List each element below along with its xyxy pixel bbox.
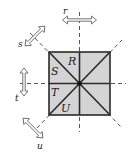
double-arrow-t-icon <box>20 68 28 96</box>
axis-label-s: s <box>18 39 23 49</box>
double-arrow-s-icon <box>22 23 47 48</box>
diagram-canvas: R S T U r s t u <box>0 0 134 157</box>
axis-label-u: u <box>37 141 43 151</box>
region-label-U: U <box>61 102 71 115</box>
axis-label-r: r <box>63 6 68 16</box>
axis-label-t: t <box>15 93 19 103</box>
region-label-R: R <box>67 55 76 68</box>
double-arrow-u-icon <box>20 115 45 140</box>
reflection-symmetry-diagram: R S T U r s t u <box>0 0 134 157</box>
center-point <box>77 81 81 85</box>
region-label-S: S <box>51 65 59 78</box>
